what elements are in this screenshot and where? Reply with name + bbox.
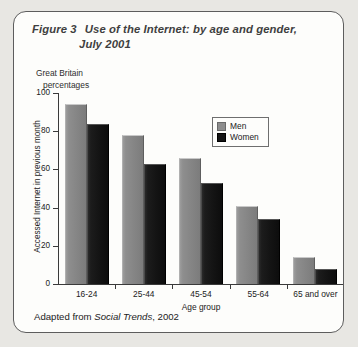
y-tick-label: 60: [24, 164, 50, 173]
figure-source-note: Adapted from Social Trends, 2002: [34, 311, 179, 322]
legend-item-women: Women: [217, 132, 259, 143]
source-prefix: Adapted from: [34, 311, 94, 322]
legend-swatch-women-icon: [217, 133, 226, 142]
legend-item-men: Men: [217, 121, 259, 132]
bar-women-55-64: [258, 219, 280, 284]
y-tick-label: 20: [24, 241, 50, 250]
y-tick-mark: [53, 284, 58, 285]
bar-women-65-and-over: [315, 269, 337, 284]
legend-swatch-men-icon: [217, 122, 226, 131]
x-category-label: 45-54: [172, 289, 229, 299]
y-tick-label: 40: [24, 203, 50, 212]
x-category-label: 55-64: [230, 289, 287, 299]
bar-men-65-and-over: [293, 257, 315, 284]
x-category-label: 25-44: [115, 289, 172, 299]
bar-men-16-24: [65, 104, 87, 284]
bar-women-16-24: [87, 124, 109, 284]
y-tick-label: 0: [24, 279, 50, 288]
bar-men-45-54: [179, 158, 201, 284]
bar-women-45-54: [201, 183, 223, 284]
figure-card: Figure 3Use of the Internet: by age and …: [13, 11, 344, 333]
y-tick-label: 80: [24, 126, 50, 135]
legend-label-women: Women: [230, 132, 259, 143]
bar-women-25-44: [144, 164, 166, 284]
source-suffix: , 2002: [152, 311, 179, 322]
chart-legend: Men Women: [212, 117, 269, 147]
source-publication: Social Trends: [94, 311, 152, 322]
legend-label-men: Men: [230, 121, 246, 132]
x-category-label: 65 and over: [287, 289, 344, 299]
bar-men-55-64: [236, 206, 258, 284]
chart-plot-area: Accessed Internet in previous month 0204…: [14, 12, 344, 312]
bar-men-25-44: [122, 135, 144, 284]
x-category-label: 16-24: [58, 289, 115, 299]
y-tick-label: 100: [24, 88, 50, 97]
x-axis-line: [58, 284, 344, 285]
bar-series-layer: [58, 93, 344, 284]
